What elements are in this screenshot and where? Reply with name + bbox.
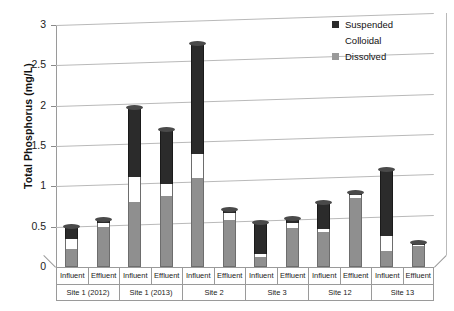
bar-effluent-3 [160, 130, 173, 267]
group-label: Site 2 [182, 285, 245, 301]
bar-effluent-9 [349, 193, 362, 267]
bar-segment-dissolved [191, 178, 204, 267]
floor-right-edge [434, 255, 447, 268]
bar-effluent-1 [97, 220, 110, 267]
bar-segment-colloidal [65, 239, 78, 249]
legend-label: Dissolved [345, 51, 386, 62]
legend-swatch-col [332, 37, 339, 44]
bar-segment-colloidal [160, 184, 173, 196]
y-axis-tick-label: 2 [20, 99, 46, 111]
bar-segment-dissolved [286, 228, 299, 267]
bar-top-ellipse [221, 207, 238, 212]
category-label: Effluent [214, 267, 246, 285]
bar-segment-dissolved [254, 257, 267, 267]
legend-label: Suspended [345, 19, 393, 30]
legend-swatch-sus [332, 21, 339, 28]
gridline [56, 134, 434, 147]
bar-influent-4 [191, 44, 204, 267]
bar-segment-colloidal [128, 177, 141, 203]
legend-swatch-dis [332, 53, 339, 60]
bar-top-ellipse [252, 220, 269, 225]
category-axis-band: InfluentEffluentInfluentEffluentInfluent… [56, 267, 434, 285]
bar-influent-6 [254, 223, 267, 267]
bar-influent-8 [317, 203, 330, 268]
gridline [56, 94, 434, 107]
bar-segment-dissolved [380, 251, 393, 267]
y-axis-tick [51, 146, 56, 147]
group-label: Site 3 [245, 285, 308, 301]
bar-top-ellipse [158, 127, 175, 132]
bar-segment-dissolved [349, 198, 362, 267]
y-axis-tick-label: 2.5 [20, 58, 46, 70]
bar-segment-colloidal [223, 213, 236, 220]
y-axis-tick-label: 0.5 [20, 220, 46, 232]
legend-item: Suspended [332, 16, 442, 32]
bar-segment-dissolved [223, 220, 236, 267]
y-axis-tick [51, 65, 56, 66]
bar-segment-colloidal [191, 154, 204, 178]
category-label: Influent [119, 267, 151, 285]
y-axis-tick-label: 1 [20, 179, 46, 191]
bar-segment-dissolved [65, 249, 78, 267]
bar-effluent-5 [223, 210, 236, 267]
bar-segment-suspended [128, 108, 141, 177]
group-label: Site 12 [308, 285, 371, 301]
group-axis-band: Site 1 (2012)Site 1 (2013)Site 2Site 3Si… [56, 285, 434, 301]
category-label: Influent [245, 267, 277, 285]
bar-segment-colloidal [380, 236, 393, 251]
category-label: Influent [308, 267, 340, 285]
bar-influent-10 [380, 170, 393, 267]
chart-legend: SuspendedColloidalDissolved [332, 16, 442, 64]
bar-segment-suspended [191, 44, 204, 154]
bar-segment-dissolved [317, 232, 330, 267]
legend-label: Colloidal [345, 35, 381, 46]
bar-segment-dissolved [97, 227, 110, 267]
bar-top-ellipse [315, 200, 332, 205]
bar-top-ellipse [410, 240, 427, 245]
bar-effluent-7 [286, 219, 299, 267]
category-label: Effluent [340, 267, 372, 285]
bar-effluent-11 [412, 243, 425, 267]
y-axis-tick-label: 0 [20, 260, 46, 272]
gridline [56, 215, 434, 228]
bar-segment-dissolved [160, 196, 173, 267]
gridline [56, 174, 434, 187]
phosphorus-stacked-bar-chart: Total Phosphorus (mg/L) 00.511.522.53 In… [0, 0, 454, 311]
back-panel-right-edge [446, 13, 447, 255]
y-axis-tick-label: 3 [20, 18, 46, 30]
category-label: Influent [182, 267, 214, 285]
bar-top-ellipse [63, 224, 80, 229]
bar-influent-2 [128, 108, 141, 267]
bar-segment-dissolved [412, 246, 425, 267]
category-label: Influent [371, 267, 403, 285]
bar-top-ellipse [284, 216, 301, 221]
bar-segment-suspended [160, 130, 173, 184]
category-label: Influent [56, 267, 88, 285]
bar-segment-suspended [380, 170, 393, 236]
category-label: Effluent [88, 267, 120, 285]
legend-item: Dissolved [332, 48, 442, 64]
y-axis-tick [51, 186, 56, 187]
bar-segment-suspended [254, 223, 267, 254]
category-label: Effluent [151, 267, 183, 285]
category-label: Effluent [403, 267, 435, 285]
y-axis-tick [51, 227, 56, 228]
bar-top-ellipse [347, 190, 364, 195]
y-axis-tick [51, 106, 56, 107]
category-label: Effluent [277, 267, 309, 285]
legend-item: Colloidal [332, 32, 442, 48]
bar-segment-suspended [317, 203, 330, 230]
y-axis-tick-label: 1.5 [20, 139, 46, 151]
y-axis-tick [51, 25, 56, 26]
bar-influent-0 [65, 227, 78, 267]
group-label: Site 1 (2013) [119, 285, 182, 301]
bar-segment-dissolved [128, 202, 141, 267]
group-label: Site 13 [371, 285, 434, 301]
group-label: Site 1 (2012) [56, 285, 119, 301]
